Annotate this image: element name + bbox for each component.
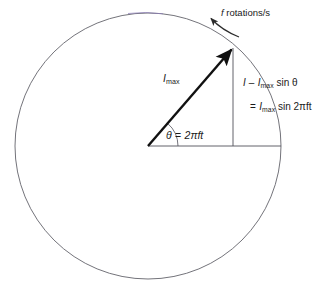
curved-arrow-counterclockwise-icon bbox=[211, 19, 239, 38]
equation-2-rhs-rest: sin 2πft bbox=[275, 101, 311, 112]
rotation-rate-label: f rotations/s bbox=[221, 8, 270, 18]
phasor-diagram: f rotations/s Imax θ = 2πft I – Imax sin… bbox=[0, 0, 326, 289]
diagram-canvas bbox=[0, 0, 326, 289]
equation-2-rhs-subscript: max bbox=[262, 106, 275, 113]
angle-value: 2πft bbox=[185, 129, 204, 141]
equation-1-equals: – bbox=[246, 77, 258, 88]
equation-line-1: I – Imax sin θ bbox=[243, 78, 298, 89]
equation-line-2: = Imax sin 2πft bbox=[250, 102, 312, 113]
equation-1-rhs-rest: sin θ bbox=[274, 77, 298, 88]
angle-equals: = bbox=[172, 129, 185, 141]
rotation-rate-text: rotations/s bbox=[224, 7, 270, 18]
vector-magnitude-label: Imax bbox=[163, 73, 180, 86]
vector-magnitude-subscript: max bbox=[166, 78, 180, 86]
equation-2-equals: = bbox=[250, 101, 259, 112]
equation-1-rhs-subscript: max bbox=[261, 82, 274, 89]
angle-label: θ = 2πft bbox=[166, 130, 203, 141]
